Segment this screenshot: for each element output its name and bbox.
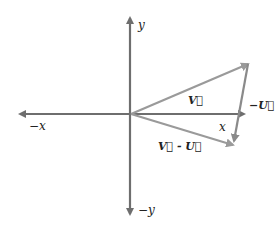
pos-y-label: y — [137, 18, 145, 32]
neg-x-label: −x — [29, 119, 46, 133]
axes — [20, 18, 244, 214]
vector-neg-u-label: −U⃗ — [249, 99, 274, 112]
neg-y-label: −y — [138, 203, 155, 217]
vector-diagram: y −y x −x V⃗ −U⃗ V⃗ - U⃗ — [0, 0, 280, 225]
diagram-svg: y −y x −x V⃗ −U⃗ V⃗ - U⃗ — [0, 0, 280, 225]
vector-diff-label: V⃗ - U⃗ — [158, 140, 202, 153]
pos-x-label: x — [219, 120, 226, 134]
vector-neg-u — [234, 64, 248, 141]
vector-v-label: V⃗ — [188, 94, 203, 107]
